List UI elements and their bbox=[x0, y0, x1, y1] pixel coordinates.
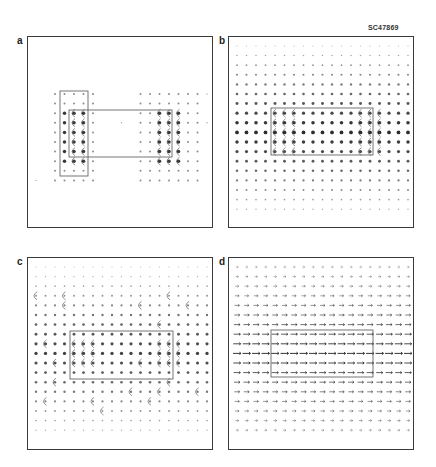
vector-field-plot bbox=[229, 37, 415, 229]
panel-label-b: b bbox=[219, 36, 225, 46]
vector-field-plot bbox=[28, 258, 214, 451]
panel-b bbox=[228, 36, 414, 228]
panel-label-c: c bbox=[17, 257, 23, 267]
panel-a bbox=[27, 36, 213, 228]
vector-field-plot bbox=[28, 37, 214, 229]
panel-label-a: a bbox=[17, 36, 23, 46]
figure-id-label: SC47869 bbox=[368, 24, 399, 31]
panel-label-d: d bbox=[219, 257, 225, 267]
panel-d bbox=[228, 257, 414, 450]
vector-field-plot bbox=[229, 258, 415, 451]
panel-c bbox=[27, 257, 213, 450]
